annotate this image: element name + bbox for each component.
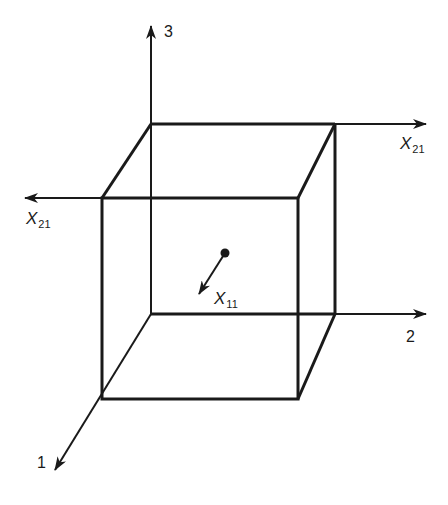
axis-2-label: 2 bbox=[406, 329, 415, 345]
diagram-canvas bbox=[0, 0, 448, 505]
center-vector-label: X11 bbox=[214, 290, 238, 310]
cube-front-face bbox=[102, 198, 298, 399]
axis-1-label: 1 bbox=[37, 455, 46, 471]
label-base: X bbox=[214, 289, 225, 308]
left-arrow-label: X21 bbox=[26, 210, 51, 230]
cube-back-face bbox=[151, 124, 335, 314]
label-subscript: 21 bbox=[412, 143, 424, 155]
center-vector-line bbox=[199, 253, 225, 294]
label-subscript: 21 bbox=[38, 218, 50, 230]
axis-3-label: 3 bbox=[164, 24, 173, 40]
label-base: X bbox=[400, 134, 411, 153]
label-base: X bbox=[26, 209, 37, 228]
top-right-arrow-label: X21 bbox=[400, 135, 425, 155]
cube-diagram: 3 2 1 X21 X21 X11 bbox=[0, 0, 448, 505]
label-subscript: 11 bbox=[226, 298, 237, 310]
